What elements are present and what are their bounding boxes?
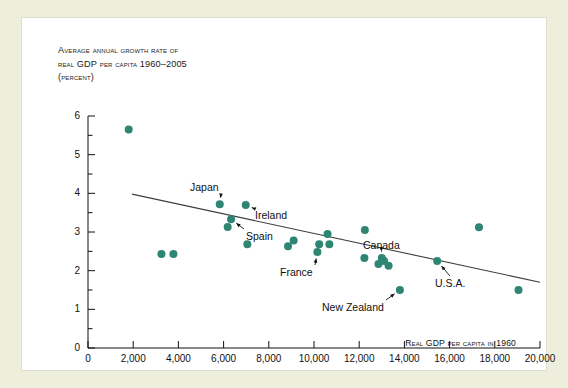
annotation-spain: Spain (246, 230, 273, 242)
x-tick-label: 8,000 (243, 353, 295, 364)
y-tick-label: 1 (58, 303, 80, 314)
data-points (125, 126, 523, 294)
data-point (224, 223, 232, 231)
annotation-usa: U.S.A. (435, 277, 465, 289)
data-point (216, 200, 224, 208)
x-tick-label: 12,000 (333, 353, 385, 364)
x-tick-label: 14,000 (378, 353, 430, 364)
annotation-japan: Japan (190, 181, 219, 193)
annotation-leader-lines (219, 193, 450, 300)
y-tick-label: 2 (58, 265, 80, 276)
data-point (227, 215, 235, 223)
data-point (284, 242, 292, 250)
x-tick-label: 18,000 (469, 353, 521, 364)
data-point (324, 230, 332, 238)
chart-title-line-2: real GDP per capita 1960–2005 (58, 58, 348, 72)
chart-card: Average annual growth rate of real GDP p… (22, 18, 546, 370)
x-tick-label: 0 (62, 353, 114, 364)
trend-line (132, 194, 540, 282)
plot-area (88, 116, 540, 348)
data-point (315, 240, 323, 248)
data-point (325, 240, 333, 248)
data-point (433, 257, 441, 265)
leader-arrow-france (314, 258, 318, 262)
data-point (396, 286, 404, 294)
y-tick-label: 4 (58, 187, 80, 198)
data-point (242, 201, 250, 209)
data-point (361, 226, 369, 234)
annotation-ireland: Ireland (255, 209, 287, 221)
annotation-new-zealand: New Zealand (322, 301, 384, 313)
x-tick-label: 2,000 (107, 353, 159, 364)
leader-arrow-new-zealand (390, 294, 395, 298)
data-point (385, 262, 393, 270)
data-point (157, 250, 165, 258)
data-point (290, 237, 298, 245)
y-tick-label: 5 (58, 149, 80, 160)
y-tick-label: 6 (58, 110, 80, 121)
axes (88, 116, 540, 348)
data-point (360, 254, 368, 262)
data-point (475, 223, 483, 231)
scatter-plot-svg (88, 116, 540, 348)
annotation-canada: Canada (363, 239, 400, 251)
chart-title: Average annual growth rate of real GDP p… (58, 44, 348, 85)
x-tick-label: 10,000 (288, 353, 340, 364)
x-axis-title: Real GDP per capita in 1960 (405, 338, 516, 348)
x-tick-label: 4,000 (152, 353, 204, 364)
chart-title-line-1: Average annual growth rate of (58, 44, 348, 58)
data-point (169, 250, 177, 258)
data-point (313, 248, 321, 256)
annotation-france: France (280, 266, 313, 278)
y-tick-label: 3 (58, 226, 80, 237)
data-point (125, 126, 133, 134)
x-tick-label: 6,000 (198, 353, 250, 364)
x-tick-label: 20,000 (514, 353, 566, 364)
y-tick-label: 0 (58, 342, 80, 353)
x-tick-label: 16,000 (424, 353, 476, 364)
chart-title-line-3: (percent) (58, 71, 348, 85)
data-point (515, 286, 523, 294)
